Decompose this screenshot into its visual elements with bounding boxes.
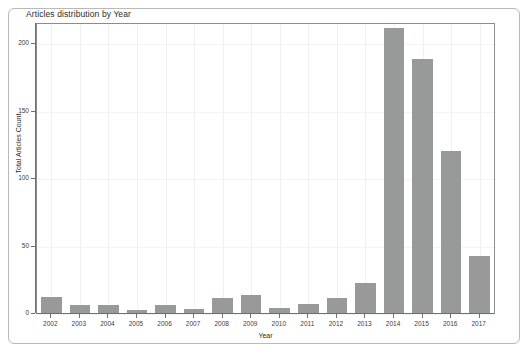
y-axis-tick-label: 50 [10, 242, 29, 249]
y-axis-tick [31, 111, 35, 112]
gridline-vertical [80, 24, 81, 313]
x-axis-tick [250, 314, 251, 318]
chart-title: Articles distribution by Year [26, 9, 131, 19]
gridline-horizontal [37, 44, 494, 45]
y-axis-tick [31, 43, 35, 44]
x-axis-tick-label: 2015 [409, 320, 435, 327]
y-axis-tick-label: 0 [10, 309, 29, 316]
bar-2017 [469, 256, 490, 313]
x-axis-tick-label: 2003 [66, 320, 92, 327]
y-axis-tick [31, 313, 35, 314]
x-axis-title: Year [0, 332, 531, 339]
gridline-horizontal [37, 314, 494, 315]
x-axis-tick-label: 2008 [209, 320, 235, 327]
bar-2014 [384, 28, 405, 313]
plot-inner [37, 24, 494, 313]
y-axis-tick-label: 100 [10, 174, 29, 181]
x-axis-tick-label: 2013 [351, 320, 377, 327]
x-axis-tick-label: 2006 [152, 320, 178, 327]
bar-2006 [155, 305, 176, 313]
x-axis-tick [479, 314, 480, 318]
x-axis-tick-label: 2004 [94, 320, 120, 327]
gridline-vertical [308, 24, 309, 313]
x-axis-tick [136, 314, 137, 318]
x-axis-tick [364, 314, 365, 318]
x-axis-tick [422, 314, 423, 318]
x-axis-tick [50, 314, 51, 318]
gridline-vertical [137, 24, 138, 313]
y-axis-tick [31, 246, 35, 247]
bar-2009 [241, 295, 262, 313]
x-axis-line [36, 313, 494, 314]
x-axis-tick [336, 314, 337, 318]
x-axis-tick-label: 2007 [180, 320, 206, 327]
bar-2016 [441, 151, 462, 313]
bar-2002 [41, 297, 62, 313]
y-axis-tick [31, 178, 35, 179]
gridline-vertical [251, 24, 252, 313]
bar-2015 [412, 59, 433, 313]
x-axis-tick-label: 2014 [380, 320, 406, 327]
gridline-vertical [337, 24, 338, 313]
gridline-vertical [365, 24, 366, 313]
y-axis-tick-label: 150 [10, 107, 29, 114]
gridline-vertical [108, 24, 109, 313]
bar-2013 [355, 283, 376, 313]
x-axis-tick-label: 2005 [123, 320, 149, 327]
x-axis-tick [279, 314, 280, 318]
x-axis-tick [165, 314, 166, 318]
gridline-vertical [223, 24, 224, 313]
x-axis-tick [307, 314, 308, 318]
y-axis-tick-label: 200 [10, 39, 29, 46]
gridline-vertical [51, 24, 52, 313]
x-axis-tick [450, 314, 451, 318]
bar-2008 [212, 298, 233, 313]
x-axis-tick-label: 2017 [466, 320, 492, 327]
x-axis-tick [222, 314, 223, 318]
x-axis-tick-label: 2011 [294, 320, 320, 327]
x-axis-tick-label: 2010 [266, 320, 292, 327]
x-axis-tick [107, 314, 108, 318]
x-axis-tick [193, 314, 194, 318]
x-axis-tick-label: 2002 [37, 320, 63, 327]
gridline-vertical [166, 24, 167, 313]
gridline-vertical [194, 24, 195, 313]
x-axis-tick [79, 314, 80, 318]
x-axis-tick-label: 2016 [437, 320, 463, 327]
bar-2003 [70, 305, 91, 313]
plot-area [36, 23, 495, 314]
y-axis-title: Total Articles Count [15, 84, 22, 204]
x-axis-tick [393, 314, 394, 318]
x-axis-tick-label: 2009 [237, 320, 263, 327]
x-axis-tick-label: 2012 [323, 320, 349, 327]
gridline-vertical [280, 24, 281, 313]
bar-2011 [298, 304, 319, 313]
bar-2004 [98, 305, 119, 313]
bar-2012 [327, 298, 348, 313]
y-axis-line [35, 23, 36, 313]
